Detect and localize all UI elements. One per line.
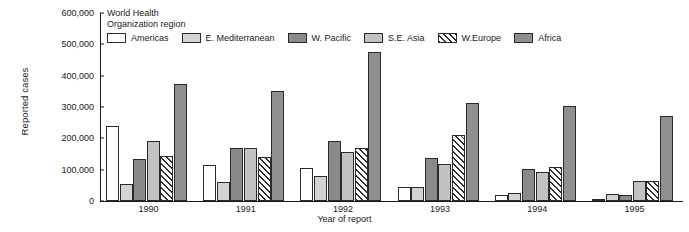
bar-s-e-asia-1990 [147, 141, 160, 201]
legend-item-americas[interactable]: Americas [107, 33, 169, 43]
x-tick-label-1990: 1990 [99, 204, 199, 214]
bar-africa-1994 [563, 106, 576, 201]
bar-americas-1991 [203, 165, 216, 201]
bar-africa-1995 [660, 116, 673, 201]
legend-item-africa[interactable]: Africa [514, 33, 561, 43]
legend-item-e-mediterranean[interactable]: E. Mediterranean [182, 33, 275, 43]
y-tick-500000: 500,000 [61, 39, 100, 49]
bar-s-e-asia-1992 [341, 152, 354, 202]
bar-w-europe-1994 [549, 167, 562, 201]
bar-americas-1994 [495, 195, 508, 201]
legend-swatch-e-mediterranean [182, 33, 201, 43]
bar-e-mediterranean-1994 [508, 193, 521, 201]
legend-swatch-africa [514, 33, 533, 43]
y-tick-200000: 200,000 [61, 133, 100, 143]
legend-title: World Health Organization region [107, 8, 682, 30]
legend-label-americas: Americas [131, 33, 169, 43]
bar-w-pacific-1991 [230, 148, 243, 201]
legend-label-w-europe: W.Europe [462, 33, 502, 43]
x-axis-label: Year of report [0, 214, 689, 224]
bar-w-pacific-1994 [522, 169, 535, 201]
bar-s-e-asia-1991 [244, 148, 257, 201]
legend-label-s-e-asia: S.E. Asia [388, 33, 425, 43]
bar-w-europe-1990 [160, 156, 173, 201]
bar-e-mediterranean-1995 [606, 194, 619, 201]
bar-africa-1992 [368, 52, 381, 201]
legend-label-africa: Africa [538, 33, 561, 43]
y-tick-600000: 600,000 [61, 8, 100, 18]
bar-americas-1992 [300, 168, 313, 201]
bar-w-europe-1993 [452, 135, 465, 201]
bar-w-pacific-1995 [619, 195, 632, 201]
y-tick-400000: 400,000 [61, 71, 100, 81]
x-tick-label-1992: 1992 [293, 204, 393, 214]
x-tick-label-1993: 1993 [390, 204, 490, 214]
legend-items: AmericasE. MediterraneanW. PacificS.E. A… [107, 33, 682, 43]
bar-e-mediterranean-1990 [120, 184, 133, 201]
legend-swatch-americas [107, 33, 126, 43]
bar-e-mediterranean-1992 [314, 176, 327, 201]
y-axis-label: Reported cases [19, 47, 30, 157]
y-tick-100000: 100,000 [61, 165, 100, 175]
y-tick-300000: 300,000 [61, 102, 100, 112]
bar-w-europe-1992 [355, 148, 368, 201]
legend-item-s-e-asia[interactable]: S.E. Asia [364, 33, 425, 43]
bar-chart: Reported cases Year of report 0100,00020… [0, 0, 689, 232]
bar-w-pacific-1992 [328, 141, 341, 201]
legend-label-w-pacific: W. Pacific [312, 33, 352, 43]
legend-item-w-europe[interactable]: W.Europe [438, 33, 502, 43]
legend-title-line-1: World Health [107, 8, 682, 19]
bar-africa-1990 [174, 84, 187, 202]
bar-e-mediterranean-1993 [411, 187, 424, 201]
bar-w-europe-1991 [258, 157, 271, 201]
bar-s-e-asia-1995 [633, 181, 646, 201]
legend-swatch-w-pacific [288, 33, 307, 43]
bar-e-mediterranean-1991 [217, 182, 230, 201]
legend-item-w-pacific[interactable]: W. Pacific [288, 33, 352, 43]
bar-africa-1993 [466, 103, 479, 201]
bar-americas-1990 [106, 126, 119, 201]
legend-swatch-w-europe [438, 33, 457, 43]
bar-africa-1991 [271, 91, 284, 201]
legend-title-line-2: Organization region [107, 19, 682, 30]
bar-w-pacific-1993 [425, 158, 438, 201]
bar-americas-1993 [398, 187, 411, 201]
x-tick-label-1995: 1995 [584, 204, 684, 214]
bar-s-e-asia-1994 [536, 172, 549, 201]
x-tick-label-1994: 1994 [487, 204, 587, 214]
legend-swatch-s-e-asia [364, 33, 383, 43]
x-axis-line [100, 201, 683, 202]
bar-w-europe-1995 [646, 181, 659, 201]
bar-americas-1995 [592, 199, 605, 202]
legend: World Health Organization region America… [107, 8, 682, 43]
x-tick-label-1991: 1991 [196, 204, 296, 214]
bar-s-e-asia-1993 [438, 164, 451, 201]
bar-w-pacific-1990 [133, 159, 146, 201]
legend-label-e-mediterranean: E. Mediterranean [206, 33, 275, 43]
